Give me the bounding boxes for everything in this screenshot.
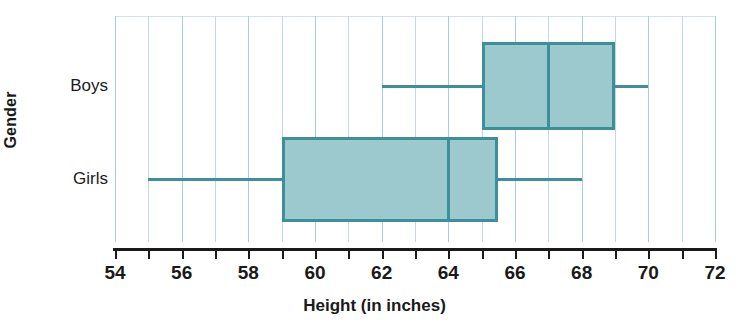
whisker-right xyxy=(498,178,581,181)
box-iqr xyxy=(282,137,499,222)
x-tick-63 xyxy=(415,248,417,259)
x-tick-59 xyxy=(282,248,284,259)
x-tick-70 xyxy=(648,248,650,259)
gridline-72 xyxy=(715,16,716,242)
x-tick-55 xyxy=(148,248,150,259)
gridline-69 xyxy=(615,16,616,242)
x-tick-69 xyxy=(615,248,617,259)
x-tick-label-68: 68 xyxy=(560,262,604,284)
x-tick-54 xyxy=(115,248,117,259)
y-axis-tick-label-girls: Girls xyxy=(40,170,108,187)
x-tick-label-56: 56 xyxy=(160,262,204,284)
x-tick-label-72: 72 xyxy=(693,262,737,284)
gridline-56 xyxy=(182,16,183,242)
median-line xyxy=(447,137,450,222)
x-tick-label-70: 70 xyxy=(626,262,670,284)
x-tick-64 xyxy=(448,248,450,259)
gridline-58 xyxy=(248,16,249,242)
x-tick-label-64: 64 xyxy=(426,262,470,284)
x-tick-62 xyxy=(382,248,384,259)
x-tick-label-54: 54 xyxy=(93,262,137,284)
x-tick-61 xyxy=(348,248,350,259)
x-tick-66 xyxy=(515,248,517,259)
x-tick-label-62: 62 xyxy=(360,262,404,284)
gridline-57 xyxy=(215,16,216,242)
whisker-right xyxy=(615,85,648,88)
x-tick-56 xyxy=(182,248,184,259)
whisker-left xyxy=(382,85,482,88)
x-tick-65 xyxy=(482,248,484,259)
x-tick-67 xyxy=(548,248,550,259)
whisker-left xyxy=(148,178,281,181)
gridline-55 xyxy=(148,16,149,242)
x-tick-68 xyxy=(582,248,584,259)
y-axis-tick-label-boys: Boys xyxy=(40,77,108,94)
plot-area xyxy=(115,16,715,242)
x-tick-72 xyxy=(715,248,717,259)
x-tick-label-60: 60 xyxy=(293,262,337,284)
gridline-70 xyxy=(648,16,649,242)
box-plot-chart: Gender Boys Girls 54565860626466687072 H… xyxy=(0,0,749,326)
x-tick-57 xyxy=(215,248,217,259)
gridline-54 xyxy=(115,16,116,242)
gridline-71 xyxy=(682,16,683,242)
x-tick-label-58: 58 xyxy=(226,262,270,284)
y-axis-title: Gender xyxy=(2,50,20,190)
x-tick-58 xyxy=(248,248,250,259)
median-line xyxy=(547,42,550,130)
x-axis-title: Height (in inches) xyxy=(0,296,749,316)
x-tick-71 xyxy=(682,248,684,259)
x-tick-60 xyxy=(315,248,317,259)
x-tick-label-66: 66 xyxy=(493,262,537,284)
